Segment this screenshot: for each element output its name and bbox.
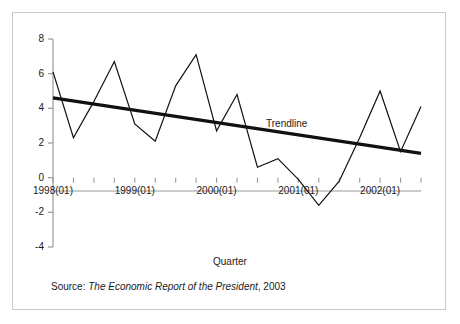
source-note: Source: The Economic Report of the Presi… (51, 281, 286, 292)
source-prefix: Source: (51, 281, 88, 292)
x-tick-marks (53, 178, 421, 183)
x-tick-label: 1999(01) (107, 186, 163, 196)
x-axis-title: Quarter (213, 256, 247, 267)
x-tick-label: 2002(01) (352, 186, 408, 196)
y-tick-label: 0 (13, 173, 44, 183)
data-series-line (53, 55, 421, 206)
y-tick-label: -4 (13, 242, 44, 252)
y-tick-marks (48, 39, 53, 247)
y-tick-label: 2 (13, 138, 44, 148)
y-tick-label: 4 (13, 103, 44, 113)
x-tick-label: 2001(01) (270, 186, 326, 196)
trendline (53, 98, 421, 153)
chart-figure: 86420-2-4 1998(01)1999(01)2000(01)2001(0… (12, 12, 446, 310)
x-tick-label: 1998(01) (25, 186, 81, 196)
y-tick-label: 6 (13, 69, 44, 79)
source-title: The Economic Report of the President (88, 281, 258, 292)
y-tick-label: 8 (13, 34, 44, 44)
y-tick-label: -2 (13, 207, 44, 217)
x-tick-label: 2000(01) (189, 186, 245, 196)
trendline-label: Trendline (266, 118, 307, 129)
source-suffix: , 2003 (258, 281, 286, 292)
